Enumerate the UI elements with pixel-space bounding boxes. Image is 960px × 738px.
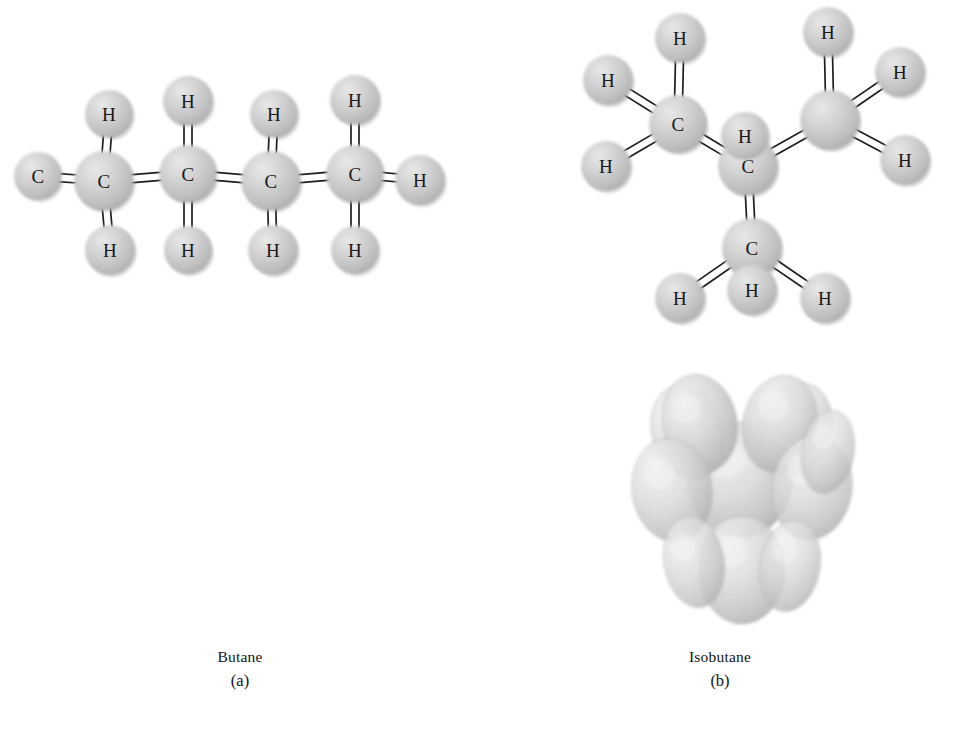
atom-h-7: H: [163, 76, 213, 126]
atom-label-c: C: [31, 166, 44, 187]
atom-h-11: H: [727, 265, 777, 315]
atom-label-h: H: [267, 104, 281, 125]
caption-butane-name: Butane: [0, 645, 480, 668]
atom-h-13: H: [395, 155, 445, 205]
atom-h-4: H: [655, 13, 705, 63]
atom-c-0: C: [649, 95, 707, 153]
atom-label-h: H: [181, 240, 195, 261]
atom-label-h: H: [103, 240, 117, 261]
atom-label-h: H: [348, 90, 362, 111]
atom-c-2: [800, 90, 860, 150]
atom-h-12: H: [331, 226, 379, 274]
atom-h-12: H: [655, 273, 705, 323]
atom-label-h: H: [673, 288, 687, 309]
atom-h-7: H: [721, 112, 769, 160]
atom-h-10: H: [880, 135, 930, 185]
atom-c-1: C: [74, 151, 134, 211]
atom-h-5: H: [583, 55, 633, 105]
atom-label-h: H: [893, 62, 907, 83]
atom-label-h: H: [673, 28, 687, 49]
atom-label-h: H: [818, 288, 832, 309]
butane-ball-and-stick-model: CCCCCHHHHHHHHH: [0, 0, 480, 330]
atom-label-c: C: [745, 238, 758, 259]
atom-h-6: H: [85, 225, 135, 275]
caption-isobutane-name: Isobutane: [480, 645, 960, 668]
caption-butane-tag: (a): [0, 668, 480, 694]
panel-isobutane: CCCHHHHHHHHHH Isobutane (b): [480, 0, 960, 738]
caption-isobutane-tag: (b): [480, 668, 960, 694]
atom-c-2: C: [159, 145, 217, 203]
atom-label-h: H: [898, 150, 912, 171]
atom-label-h: H: [348, 240, 362, 261]
atom-h-6: H: [581, 141, 631, 191]
isobutane-ball-and-stick-model: CCCHHHHHHHHHH: [480, 0, 960, 340]
atom-h-9: H: [875, 47, 925, 97]
atom-label-h: H: [266, 240, 280, 261]
atom-h-11: H: [330, 75, 380, 125]
atom-h-8: H: [164, 226, 212, 274]
atom-label-h: H: [599, 156, 613, 177]
butane-space-filling-model: [0, 345, 480, 645]
atom-c-0: C: [14, 152, 62, 200]
atom-label-h: H: [102, 104, 116, 125]
atom-c-4: C: [326, 145, 384, 203]
panel-butane: CCCCCHHHHHHHHH Butane (a): [0, 0, 480, 738]
atom-label-c: C: [671, 114, 684, 135]
molecular-models-figure: CCCCCHHHHHHHHH Butane (a) CCCHHHHHHHHHH …: [0, 0, 960, 738]
atom-label-h: H: [738, 126, 752, 147]
atom-label-h: H: [601, 70, 615, 91]
caption-butane: Butane (a): [0, 645, 480, 694]
atom-label-c: C: [264, 171, 277, 192]
atom-label-h: H: [821, 22, 835, 43]
atom-label-c: C: [97, 171, 110, 192]
atom-label-c: C: [348, 164, 361, 185]
atom-h-9: H: [250, 90, 298, 138]
atom-h-10: H: [248, 225, 298, 275]
atom-c-3: C: [241, 151, 301, 211]
atom-label-h: H: [181, 91, 195, 112]
atom-label-h: H: [413, 170, 427, 191]
atom-label-h: H: [745, 280, 759, 301]
atom-h-13: H: [800, 273, 850, 323]
atom-label-c: C: [181, 164, 194, 185]
isobutane-space-filling-model: [480, 350, 960, 650]
atom-h-5: H: [85, 90, 133, 138]
atom-h-8: H: [803, 7, 853, 57]
caption-isobutane: Isobutane (b): [480, 645, 960, 694]
